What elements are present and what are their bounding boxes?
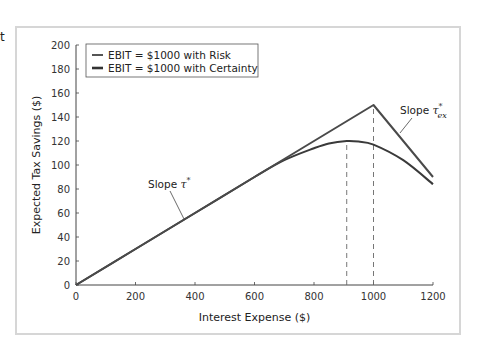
- x-tick-label: 200: [126, 291, 145, 302]
- y-tick-label: 140: [51, 112, 70, 123]
- chart-svg: 0200400600800100012000204060801001201401…: [0, 0, 487, 356]
- legend-label: EBIT = $1000 with Risk: [108, 49, 232, 61]
- risk-curve: [76, 141, 433, 285]
- legend: EBIT = $1000 with RiskEBIT = $1000 with …: [86, 44, 258, 77]
- axes: 0200400600800100012000204060801001201401…: [30, 40, 446, 325]
- x-tick-label: 600: [245, 291, 264, 302]
- slope-tau-ex-label: Slope τ*ex: [400, 102, 447, 120]
- certainty-line: [76, 105, 433, 285]
- y-axis-title: Expected Tax Savings ($): [30, 96, 43, 235]
- reference-lines: [347, 105, 374, 285]
- y-tick-label: 200: [51, 40, 70, 51]
- slope-tau-label: Slope τ*: [148, 176, 191, 191]
- series-lines: [76, 105, 433, 285]
- x-tick-label: 400: [185, 291, 204, 302]
- legend-label: EBIT = $1000 with Certainty: [108, 62, 258, 74]
- x-tick-label: 1000: [361, 291, 386, 302]
- y-tick-label: 100: [51, 160, 70, 171]
- y-tick-label: 60: [57, 208, 70, 219]
- x-axis-title: Interest Expense ($): [199, 311, 311, 324]
- x-tick-label: 1200: [420, 291, 445, 302]
- y-tick-label: 40: [57, 232, 70, 243]
- slope-tau-annotation: Slope τ*: [148, 176, 191, 219]
- y-tick-label: 80: [57, 184, 70, 195]
- y-tick-label: 180: [51, 64, 70, 75]
- x-tick-label: 800: [304, 291, 323, 302]
- slope-tau-ex-annotation: Slope τ*ex: [400, 102, 447, 133]
- annotation-leader-line: [400, 118, 412, 133]
- y-tick-label: 20: [57, 256, 70, 267]
- y-tick-label: 0: [64, 280, 70, 291]
- annotation-leader-line: [170, 191, 184, 219]
- y-tick-label: 120: [51, 136, 70, 147]
- y-tick-label: 160: [51, 88, 70, 99]
- x-tick-label: 0: [73, 291, 79, 302]
